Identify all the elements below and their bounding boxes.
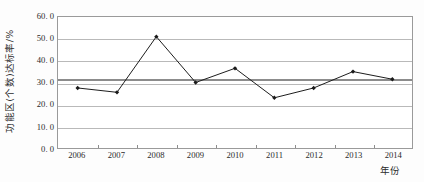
- x-axis-tick-label: 2008: [147, 151, 164, 160]
- y-axis-tick-label: 20. 0: [16, 100, 54, 109]
- y-axis-tick-label: 40. 0: [16, 56, 54, 65]
- series-markers: [75, 34, 394, 99]
- y-axis-title-text: 功能区(个数)达标率/%: [2, 29, 16, 132]
- x-axis-tick-label: 2013: [345, 151, 362, 160]
- plot-area: [57, 16, 413, 149]
- x-axis-tick-label: 2006: [68, 151, 85, 160]
- data-point: [311, 86, 315, 90]
- y-axis-tick-label: 10. 0: [16, 123, 54, 132]
- x-axis-tick-label: 2010: [226, 151, 243, 160]
- y-axis-tick-labels: 0. 010. 020. 030. 040. 050. 060. 0: [16, 0, 54, 182]
- data-point: [351, 69, 355, 73]
- data-point: [75, 86, 79, 90]
- data-point: [390, 77, 394, 81]
- y-axis-tick-label: 0. 0: [16, 145, 54, 154]
- y-axis-tick-label: 60. 0: [16, 12, 54, 21]
- x-axis-tick-label: 2011: [266, 151, 283, 160]
- chart-screenshot: 功能区(个数)达标率/% 0. 010. 020. 030. 040. 050.…: [0, 0, 424, 182]
- x-axis-tick-label: 2012: [306, 151, 323, 160]
- x-axis-tick-label: 2009: [187, 151, 204, 160]
- x-axis-title: 年份: [380, 163, 401, 177]
- x-axis-tick-label: 2014: [385, 151, 402, 160]
- data-series: [58, 17, 412, 148]
- y-axis-tick-label: 50. 0: [16, 34, 54, 43]
- x-axis-tick-label: 2007: [108, 151, 125, 160]
- y-axis-tick-label: 30. 0: [16, 78, 54, 87]
- x-axis-tick-labels: 200620072008200920102011201220132014: [57, 151, 413, 165]
